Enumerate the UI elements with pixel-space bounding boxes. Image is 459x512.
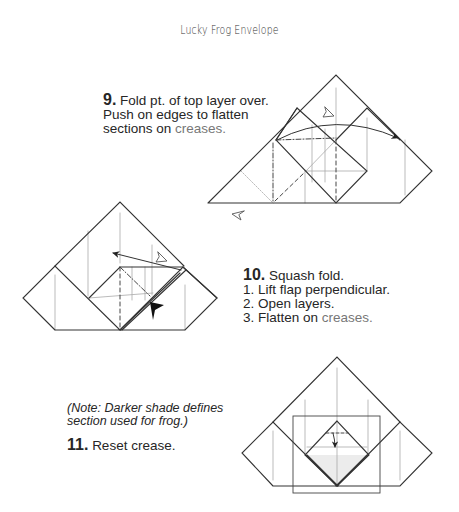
step-10-diagram <box>23 202 217 330</box>
origami-diagrams <box>0 0 459 512</box>
reset-fold-arrow-icon <box>333 433 335 447</box>
hollow-arrowhead-icon <box>232 211 244 220</box>
step-11-diagram <box>242 357 432 493</box>
hollow-arrowhead-icon <box>323 107 334 117</box>
push-arrow-icon <box>150 302 164 320</box>
step-9-diagram <box>208 75 432 220</box>
hollow-arrowhead-icon <box>156 252 167 262</box>
